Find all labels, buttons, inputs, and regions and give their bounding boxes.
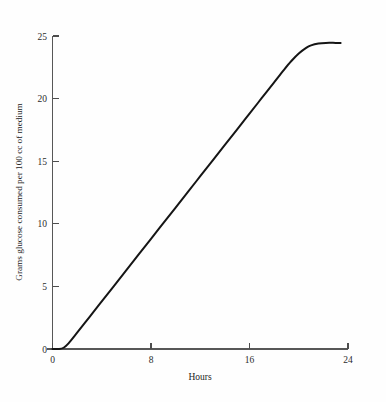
x-axis-title: Hours (188, 372, 212, 382)
y-tick-label-20: 20 (38, 94, 48, 104)
chart-figure: 25 20 15 10 5 0 0 8 16 24 Hours Grams gl… (0, 0, 386, 402)
x-axis-tick-labels: 0 8 16 24 (50, 355, 353, 365)
glucose-consumption-line-chart: 25 20 15 10 5 0 0 8 16 24 Hours Grams gl… (0, 0, 386, 402)
y-tick-label-10: 10 (38, 219, 48, 229)
y-axis-title: Grams glucose consumed per 100 cc of med… (14, 103, 24, 280)
y-tick-label-0: 0 (42, 345, 47, 355)
y-axis-ticks (53, 36, 60, 349)
x-tick-label-0: 0 (50, 355, 55, 365)
y-axis-tick-labels: 25 20 15 10 5 0 (38, 32, 48, 355)
y-tick-label-25: 25 (38, 32, 48, 42)
y-tick-label-15: 15 (38, 157, 48, 167)
glucose-consumption-curve (53, 43, 341, 349)
x-tick-label-16: 16 (245, 355, 255, 365)
y-tick-label-5: 5 (42, 282, 47, 292)
x-axis-ticks (53, 343, 349, 350)
x-tick-label-24: 24 (343, 355, 353, 365)
x-tick-label-8: 8 (149, 355, 154, 365)
